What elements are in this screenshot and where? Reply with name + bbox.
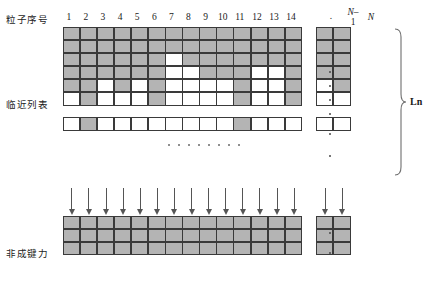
neighbor-cell-tail[interactable] <box>333 242 351 256</box>
neighbor-cell[interactable] <box>182 229 200 243</box>
neighbor-cell-tail[interactable] <box>333 229 351 243</box>
neighbor-cell[interactable] <box>251 27 269 41</box>
neighbor-cell[interactable] <box>114 216 132 230</box>
neighbor-cell[interactable] <box>268 27 286 41</box>
neighbor-cell[interactable] <box>268 229 286 243</box>
neighbor-cell[interactable] <box>233 117 251 131</box>
neighbor-cell[interactable] <box>268 53 286 67</box>
neighbor-cell[interactable] <box>114 92 132 106</box>
neighbor-cell[interactable] <box>148 92 166 106</box>
neighbor-cell[interactable] <box>80 117 98 131</box>
neighbor-cell[interactable] <box>182 117 200 131</box>
neighbor-cell[interactable] <box>285 66 303 80</box>
neighbor-cell[interactable] <box>80 79 98 93</box>
neighbor-cell[interactable] <box>285 242 303 256</box>
neighbor-cell[interactable] <box>268 92 286 106</box>
neighbor-cell[interactable] <box>216 66 234 80</box>
neighbor-cell[interactable] <box>148 40 166 54</box>
neighbor-cell[interactable] <box>114 40 132 54</box>
neighbor-cell[interactable] <box>233 92 251 106</box>
neighbor-cell[interactable] <box>131 53 149 67</box>
nonbonded-force-grid[interactable] <box>63 216 351 255</box>
neighbor-cell[interactable] <box>97 117 115 131</box>
neighbor-cell[interactable] <box>199 66 217 80</box>
neighbor-cell[interactable] <box>251 92 269 106</box>
neighbor-cell[interactable] <box>285 40 303 54</box>
neighbor-cell[interactable] <box>216 53 234 67</box>
neighbor-cell[interactable] <box>216 40 234 54</box>
neighbor-list-grid[interactable] <box>63 27 351 131</box>
neighbor-cell[interactable] <box>182 79 200 93</box>
neighbor-cell[interactable] <box>233 27 251 41</box>
neighbor-cell[interactable] <box>148 53 166 67</box>
neighbor-cell[interactable] <box>80 92 98 106</box>
neighbor-cell[interactable] <box>285 117 303 131</box>
neighbor-cell[interactable] <box>233 66 251 80</box>
neighbor-cell[interactable] <box>97 66 115 80</box>
neighbor-cell-tail[interactable] <box>333 92 351 106</box>
neighbor-cell[interactable] <box>131 242 149 256</box>
neighbor-cell[interactable] <box>285 27 303 41</box>
neighbor-cell[interactable] <box>251 242 269 256</box>
neighbor-cell[interactable] <box>114 53 132 67</box>
neighbor-cell[interactable] <box>199 27 217 41</box>
neighbor-cell[interactable] <box>148 79 166 93</box>
neighbor-cell[interactable] <box>97 27 115 41</box>
neighbor-cell[interactable] <box>131 40 149 54</box>
neighbor-cell[interactable] <box>80 66 98 80</box>
neighbor-cell[interactable] <box>182 40 200 54</box>
neighbor-cell[interactable] <box>251 66 269 80</box>
neighbor-cell-tail[interactable] <box>333 79 351 93</box>
neighbor-cell[interactable] <box>97 242 115 256</box>
neighbor-cell[interactable] <box>268 117 286 131</box>
neighbor-cell[interactable] <box>216 117 234 131</box>
neighbor-cell[interactable] <box>182 53 200 67</box>
neighbor-cell[interactable] <box>63 66 81 80</box>
neighbor-cell[interactable] <box>114 117 132 131</box>
neighbor-cell[interactable] <box>233 242 251 256</box>
neighbor-cell[interactable] <box>199 117 217 131</box>
neighbor-cell[interactable] <box>216 92 234 106</box>
neighbor-cell[interactable] <box>199 242 217 256</box>
neighbor-cell[interactable] <box>63 117 81 131</box>
neighbor-cell[interactable] <box>268 216 286 230</box>
neighbor-cell[interactable] <box>131 92 149 106</box>
neighbor-cell-tail[interactable] <box>316 216 334 230</box>
neighbor-cell[interactable] <box>216 242 234 256</box>
neighbor-cell[interactable] <box>97 79 115 93</box>
neighbor-cell[interactable] <box>199 40 217 54</box>
neighbor-cell[interactable] <box>251 79 269 93</box>
neighbor-cell[interactable] <box>131 216 149 230</box>
neighbor-cell[interactable] <box>251 117 269 131</box>
neighbor-cell[interactable] <box>268 242 286 256</box>
neighbor-cell[interactable] <box>131 66 149 80</box>
neighbor-cell[interactable] <box>80 27 98 41</box>
neighbor-cell-tail[interactable] <box>316 229 334 243</box>
neighbor-cell[interactable] <box>80 216 98 230</box>
neighbor-cell[interactable] <box>233 79 251 93</box>
neighbor-cell-tail[interactable] <box>333 216 351 230</box>
neighbor-cell-tail[interactable] <box>333 27 351 41</box>
neighbor-cell[interactable] <box>165 92 183 106</box>
neighbor-cell[interactable] <box>131 117 149 131</box>
neighbor-cell[interactable] <box>182 216 200 230</box>
neighbor-cell[interactable] <box>63 40 81 54</box>
neighbor-cell[interactable] <box>182 242 200 256</box>
neighbor-cell[interactable] <box>285 53 303 67</box>
neighbor-cell[interactable] <box>97 53 115 67</box>
neighbor-cell-tail[interactable] <box>316 117 334 131</box>
neighbor-cell[interactable] <box>148 229 166 243</box>
neighbor-cell[interactable] <box>216 229 234 243</box>
neighbor-cell[interactable] <box>233 40 251 54</box>
neighbor-cell[interactable] <box>251 216 269 230</box>
neighbor-cell[interactable] <box>268 40 286 54</box>
neighbor-cell[interactable] <box>233 53 251 67</box>
neighbor-cell[interactable] <box>63 27 81 41</box>
neighbor-cell[interactable] <box>165 117 183 131</box>
neighbor-cell-tail[interactable] <box>333 117 351 131</box>
neighbor-cell[interactable] <box>165 242 183 256</box>
neighbor-cell[interactable] <box>80 242 98 256</box>
neighbor-cell[interactable] <box>165 66 183 80</box>
neighbor-cell[interactable] <box>285 92 303 106</box>
neighbor-cell[interactable] <box>285 216 303 230</box>
